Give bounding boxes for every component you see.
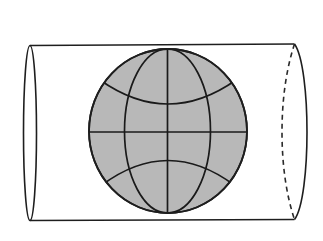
cylinder-bottom-edge — [30, 220, 295, 221]
diagram-svg — [0, 0, 323, 241]
cylinder-top-edge — [30, 44, 295, 46]
globe — [88, 48, 248, 214]
cylinder-left-end — [24, 46, 37, 221]
cylinder-right-end-visible — [295, 44, 308, 220]
cylindrical-projection-diagram — [0, 0, 323, 241]
cylinder-right-end-hidden — [282, 44, 295, 220]
